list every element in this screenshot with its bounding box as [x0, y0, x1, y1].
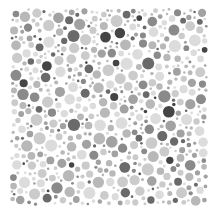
dot — [129, 175, 139, 185]
dot — [41, 147, 44, 150]
dot — [174, 86, 177, 89]
dot — [178, 33, 185, 40]
dot — [98, 67, 101, 70]
dot — [95, 24, 98, 27]
dot — [100, 22, 108, 30]
dot — [148, 49, 151, 52]
dot — [180, 85, 188, 93]
dot — [119, 86, 122, 89]
dot — [92, 95, 96, 99]
dot — [12, 53, 22, 63]
dot — [58, 119, 61, 122]
dot — [39, 17, 42, 20]
dot — [174, 55, 181, 62]
dot — [202, 107, 207, 112]
dot — [64, 94, 75, 105]
dot — [43, 194, 52, 203]
dot — [158, 104, 163, 109]
dot — [197, 113, 200, 116]
dot — [130, 141, 138, 149]
dot — [197, 49, 200, 52]
dot — [67, 64, 70, 67]
dot — [87, 203, 90, 206]
dot — [85, 118, 88, 121]
dot — [125, 200, 130, 205]
dot — [44, 56, 47, 59]
dot — [109, 170, 115, 176]
dot — [20, 25, 23, 28]
dot — [94, 119, 106, 131]
dot — [170, 166, 176, 172]
dot — [63, 131, 67, 135]
dot — [106, 81, 114, 89]
dot — [177, 154, 185, 162]
dot — [49, 134, 52, 137]
dot — [143, 202, 146, 205]
dot — [177, 64, 180, 67]
dot — [167, 86, 170, 89]
dot — [180, 18, 186, 24]
dot — [182, 28, 185, 31]
dot — [152, 188, 155, 191]
dot — [197, 178, 201, 182]
dot — [163, 120, 166, 123]
dot — [18, 36, 23, 41]
dot — [190, 49, 197, 56]
dot — [147, 196, 154, 203]
dot — [92, 199, 96, 203]
dot — [147, 17, 157, 27]
dot — [109, 45, 112, 48]
dot — [12, 160, 21, 169]
dot — [155, 72, 164, 81]
dot — [54, 80, 58, 84]
dot — [12, 65, 15, 68]
dot — [183, 183, 186, 186]
dot — [167, 187, 170, 190]
dot — [37, 179, 45, 187]
dot — [174, 77, 177, 80]
dot — [79, 86, 82, 89]
dot — [80, 34, 91, 45]
dot — [58, 24, 61, 27]
dot — [201, 164, 207, 170]
dot — [185, 56, 189, 60]
dot — [20, 12, 30, 22]
dot — [185, 173, 193, 181]
dot — [138, 11, 141, 14]
dot — [90, 77, 93, 80]
dot — [28, 161, 36, 169]
dot — [82, 140, 91, 149]
dot — [110, 9, 113, 12]
dot — [88, 180, 91, 183]
dot — [135, 110, 138, 113]
dot — [17, 188, 23, 194]
dot — [87, 25, 90, 28]
dot — [15, 118, 20, 123]
dot — [199, 80, 206, 87]
dot — [92, 59, 96, 63]
dot — [94, 166, 97, 169]
dot — [18, 111, 24, 117]
dot — [50, 84, 53, 87]
dot — [156, 48, 159, 51]
dot — [121, 138, 124, 141]
dot — [10, 174, 17, 181]
dot — [144, 120, 148, 124]
dot — [187, 199, 190, 202]
dot — [32, 9, 41, 18]
dot — [44, 154, 47, 157]
dot — [11, 88, 17, 94]
dot — [14, 153, 19, 158]
dot — [130, 106, 134, 110]
dot — [68, 82, 78, 92]
dot — [13, 11, 20, 18]
dot — [184, 41, 187, 44]
dot — [50, 129, 55, 134]
dot — [25, 108, 31, 114]
dot — [177, 99, 184, 106]
dot — [128, 124, 131, 127]
dot — [205, 25, 208, 28]
dot — [188, 79, 196, 87]
dot — [74, 19, 85, 30]
dot — [45, 126, 49, 130]
